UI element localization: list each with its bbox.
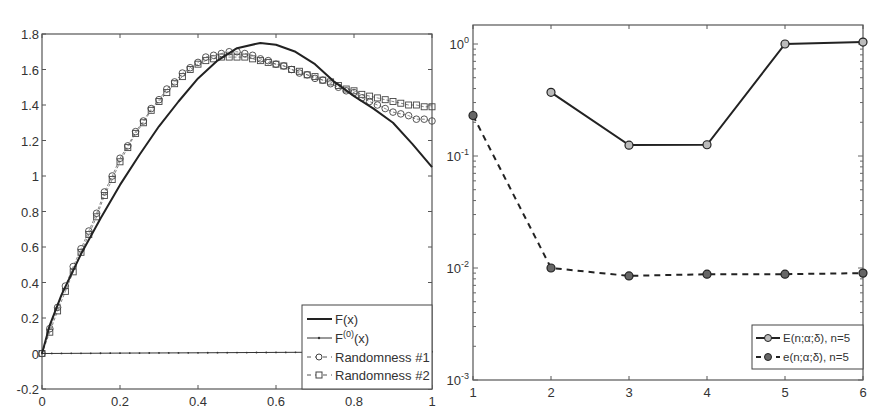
y-tick-label: 10-1 [447,147,469,164]
f0-marker [207,352,209,354]
e-upper-marker [703,141,711,149]
legend-e-marker [765,354,772,361]
y-tick-label: 0 [32,347,39,362]
f0-marker [119,352,121,354]
e-lower-marker [781,270,789,278]
f0-marker [285,351,287,353]
x-tick-label: 0.4 [189,394,207,409]
f0-marker [178,352,180,354]
f0-marker [295,351,297,353]
x-tick-label: 2 [547,385,554,400]
legend-E-marker [765,335,772,342]
left-legend: F(x)F(0)(x)Randomness #1Randomness #2 [302,305,432,389]
f0-marker [70,352,72,354]
f0-marker [109,352,111,354]
legend-label-r2: Randomness #2 [335,368,430,383]
f0-marker [51,353,53,355]
right-plot: 12345610010-110-210-3E(n;α;δ), n=5e(n;α;… [447,25,867,400]
f0-marker [246,352,248,354]
x-tick-label: 0.6 [267,394,285,409]
e-upper-marker [781,40,789,48]
y-tick-label: 0.4 [21,276,39,291]
x-tick-label: 1 [469,385,476,400]
y-tick-label: 1 [32,169,39,184]
e-lower-marker [859,269,867,277]
e-lower-marker [703,270,711,278]
y-tick-label: 10-3 [447,371,469,388]
x-tick-label: 6 [859,385,866,400]
legend-label-r1: Randomness #1 [335,350,430,365]
f0-marker [226,352,228,354]
x-tick-label: 4 [703,385,710,400]
legend-label-f: F(x) [335,312,358,327]
f0-marker [256,352,258,354]
f0-marker [236,352,238,354]
legend-label-E: E(n;α;δ), n=5 [783,332,850,344]
x-tick-label: 1 [428,394,435,409]
legend-label-e: e(n;α;δ), n=5 [783,351,849,363]
y-tick-label: -0.2 [17,382,39,397]
y-tick-label: 0.6 [21,240,39,255]
y-tick-label: 1.6 [21,63,39,78]
f0-marker [100,352,102,354]
f0-marker [80,352,82,354]
x-tick-label: 3 [625,385,632,400]
left-plot: 00.20.40.60.81-0.200.20.40.60.811.21.41.… [17,27,436,409]
e-lower-marker [625,272,633,280]
f0-marker [129,352,131,354]
e-upper-marker [859,38,867,46]
figure: 00.20.40.60.81-0.200.20.40.60.811.21.41.… [0,0,874,420]
y-tick-label: 1.8 [21,27,39,42]
y-tick-label: 0.8 [21,205,39,220]
legend-r2-marker [316,372,322,378]
x-tick-label: 0.2 [111,394,129,409]
x-tick-label: 0.8 [345,394,363,409]
e-lower-marker [547,264,555,272]
f0-marker [265,352,267,354]
legend-r1-marker [316,354,322,360]
f0-marker [217,352,219,354]
y-tick-label: 0.2 [21,311,39,326]
f0-marker [148,352,150,354]
legend-f0-marker [318,337,320,339]
e-upper-marker [547,88,555,96]
f0-marker [158,352,160,354]
f0-marker [90,352,92,354]
f0-marker [168,352,170,354]
y-tick-label: 100 [450,35,469,52]
y-tick-label: 1.4 [21,98,39,113]
f0-marker [139,352,141,354]
f0-marker [275,352,277,354]
f0-marker [197,352,199,354]
y-tick-label: 10-2 [447,259,469,276]
y-tick-label: 1.2 [21,134,39,149]
e-upper-marker [625,141,633,149]
x-tick-label: 5 [781,385,788,400]
x-tick-label: 0 [38,394,45,409]
f0-marker [61,353,63,355]
e-lower-marker [469,111,477,119]
f0-marker [187,352,189,354]
right-legend: E(n;α;δ), n=5e(n;α;δ), n=5 [752,325,863,369]
